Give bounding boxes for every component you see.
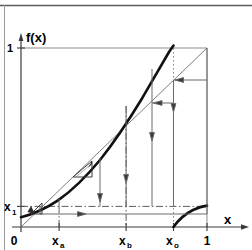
x-tick-label-xa-sub: a [60, 241, 65, 250]
x-axis-label: x [224, 212, 232, 227]
x-tick-label-xo-base: x [166, 234, 173, 248]
x-tick-label-xb-sub: b [127, 241, 132, 250]
y-tick-label-x1-sub: 1 [12, 208, 17, 217]
y-tick-label-x1-base: x [4, 200, 11, 214]
x-tick-label-xa-base: x [52, 234, 59, 248]
cobweb-iteration-figure: f(x) x 1 x 1 0 x a x b x o 1 [0, 0, 252, 250]
origin-label: 0 [11, 234, 18, 248]
x-tick-label-xo-sub: o [174, 241, 179, 250]
y-tick-label-1: 1 [7, 42, 13, 54]
x-tick-label-1: 1 [204, 234, 211, 248]
y-axis-label: f(x) [26, 30, 46, 45]
x-tick-label-xb-base: x [119, 234, 126, 248]
